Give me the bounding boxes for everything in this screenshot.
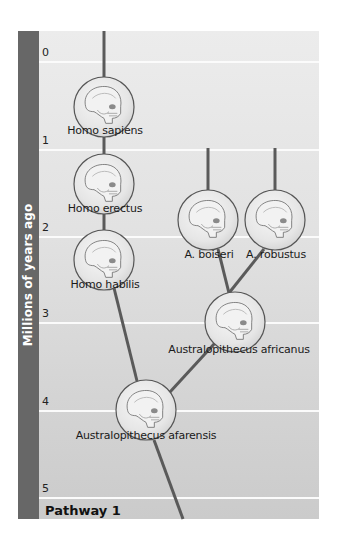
pathway-label: Pathway 1 <box>45 503 121 518</box>
species-node-a-robustus <box>245 190 305 250</box>
label-a-robustus: A. robustus <box>246 248 306 261</box>
label-homo-sapiens: Homo sapiens <box>67 124 143 137</box>
species-node-a-boiseri <box>178 190 238 250</box>
label-a-boiseri: A. boiseri <box>184 248 233 261</box>
label-australopithecus-afarensis: Australopithecus afarensis <box>76 429 217 442</box>
label-homo-erectus: Homo erectus <box>68 202 142 215</box>
branch-habilis-afarensis <box>114 288 137 381</box>
branch-afarensis-root <box>154 440 183 519</box>
label-australopithecus-africanus: Australopithecus africanus <box>168 343 309 356</box>
label-homo-habilis: Homo habilis <box>70 278 139 291</box>
phylogeny-tree <box>0 0 339 544</box>
